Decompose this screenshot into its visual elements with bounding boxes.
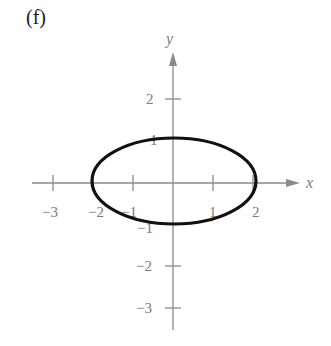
ellipse-plot: x y −3 −2 −1 1 2 2 1 −1 −2 −3 [0, 0, 331, 346]
y-tick-label: 2 [146, 91, 154, 107]
x-tick-label: −2 [88, 204, 104, 220]
y-tick-label: −3 [136, 300, 152, 316]
y-axis-label: y [164, 30, 174, 48]
x-tick-label: −3 [42, 204, 58, 220]
y-axis-arrow-icon [169, 52, 177, 66]
x-tick-label: 2 [252, 204, 260, 220]
y-tick-label: −2 [136, 258, 152, 274]
ellipse-curve [92, 138, 256, 224]
x-axis-arrow-icon [286, 179, 300, 187]
x-axis-label: x [305, 174, 313, 191]
